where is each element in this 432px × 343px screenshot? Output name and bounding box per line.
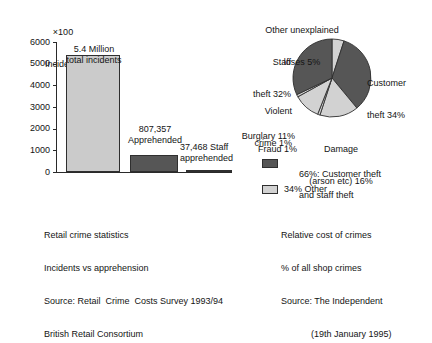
pie-label-line1: Customer bbox=[367, 78, 431, 89]
y-tick-label-6000: 6000 bbox=[16, 37, 50, 47]
legend-line1: 66%: Customer theft bbox=[299, 169, 381, 179]
bar-annotation-line2: total incidents bbox=[58, 55, 130, 66]
pie-chart-caption: Relative cost of crimes % of all shop cr… bbox=[281, 208, 392, 343]
legend-swatch-dark bbox=[262, 159, 278, 168]
bar-total-incidents bbox=[66, 55, 120, 172]
pie-caption-line1: Relative cost of crimes bbox=[281, 230, 392, 241]
y-tick-mark-5000 bbox=[53, 64, 57, 65]
pie-label-line2: theft 32% bbox=[222, 89, 291, 100]
bar-caption-line3: Source: Retail Crime Costs Survey 1993/9… bbox=[44, 296, 223, 307]
y-tick-label-5000: 5000 bbox=[16, 58, 50, 68]
y-tick-label-4000: 4000 bbox=[16, 80, 50, 90]
y-tick-mark-1000 bbox=[53, 150, 57, 151]
y-tick-mark-0 bbox=[53, 172, 57, 173]
legend-item-other: 34% Other bbox=[262, 184, 327, 195]
y-tick-label-2000: 2000 bbox=[16, 123, 50, 133]
pie-label-staff-theft: Staff theft 32% bbox=[222, 36, 291, 120]
bar-caption-line2: Incidents vs apprehension bbox=[44, 263, 223, 274]
pie-caption-line2: % of all shop crimes bbox=[281, 263, 392, 274]
bar-staff-apprehended bbox=[186, 170, 232, 172]
legend-swatch-light bbox=[262, 185, 278, 194]
pie-label-line1: Other unexplained bbox=[243, 25, 361, 36]
y-tick-mark-2000 bbox=[53, 129, 57, 130]
y-tick-mark-4000 bbox=[53, 85, 57, 86]
bar-apprehended bbox=[130, 155, 178, 172]
pie-label-line2: theft 34% bbox=[367, 110, 431, 121]
y-tick-label-3000: 3000 bbox=[16, 102, 50, 112]
bar-annotation-line1: 5.4 Million bbox=[58, 44, 130, 55]
y-tick-mark-6000 bbox=[53, 42, 57, 43]
pie-caption-line4: (19th January 1995) bbox=[281, 329, 392, 340]
y-tick-mark-3000 bbox=[53, 107, 57, 108]
bar-annotation-total-incidents: 5.4 Milliontotal incidents bbox=[58, 44, 130, 65]
pie-caption-line3: Source: The Independent bbox=[281, 296, 392, 307]
bar-caption-line4: British Retail Consortium bbox=[44, 329, 223, 340]
pie-label-line1: Damage bbox=[300, 144, 382, 155]
bar-chart-caption: Retail crime statistics Incidents vs app… bbox=[44, 208, 223, 343]
bar-caption-line1: Retail crime statistics bbox=[44, 230, 223, 241]
bar-annotation-line1: 807,357 bbox=[120, 124, 190, 135]
y-tick-label-0: 0 bbox=[16, 167, 50, 177]
y-tick-label-1000: 1000 bbox=[16, 145, 50, 155]
pie-label-line2: crime 1% bbox=[222, 138, 292, 149]
x-axis-line bbox=[56, 172, 232, 173]
pie-label-line1: Staff bbox=[222, 57, 291, 68]
legend-text-other: 34% Other bbox=[284, 184, 327, 195]
